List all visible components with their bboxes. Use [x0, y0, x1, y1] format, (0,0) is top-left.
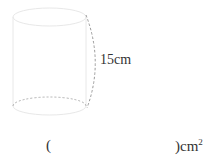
answer-open-paren: (	[46, 137, 51, 154]
height-dimension-arc	[86, 15, 95, 108]
height-label: 15cm	[100, 52, 131, 68]
answer-unit: )cm2	[175, 137, 203, 155]
unit-text: cm	[180, 138, 198, 154]
cylinder-bottom-front	[13, 106, 86, 115]
cylinder-bottom-back	[13, 97, 86, 106]
unit-exponent: 2	[198, 137, 203, 147]
cylinder-top	[13, 8, 86, 26]
